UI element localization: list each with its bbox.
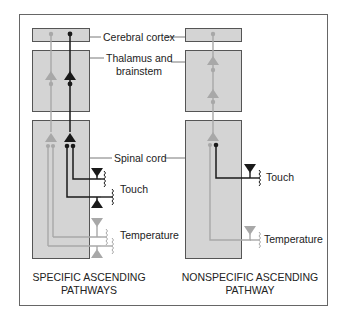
left-cortex-box [33, 29, 90, 42]
ascending-pathways-diagram: Cerebral cortex Thalamus and brainstem S… [0, 0, 343, 317]
label-temperature-specific: Temperature [120, 229, 179, 241]
ns-synapse-c [208, 143, 212, 147]
right-spinal-box [186, 121, 242, 259]
temp-synapse-spinal-a [46, 144, 50, 148]
ns-touch-nerve-ending-icon [259, 170, 261, 186]
nonspecific-column [186, 29, 261, 259]
left-spinal-box [33, 121, 90, 259]
ns-touch-receptor-icon [244, 164, 256, 173]
touch-synapse-spinal-a [65, 144, 70, 149]
ns-temp-receptor-icon [244, 226, 256, 235]
label-touch-specific: Touch [120, 183, 148, 195]
temp-nerve-ending-a-icon [106, 229, 108, 245]
ns-synapse-cortex [211, 32, 215, 36]
temp-synapse-spinal-b [51, 144, 55, 148]
temp-receptor-b-icon [91, 249, 103, 258]
touch-synapse-cortex [68, 32, 73, 37]
left-thalamus-box [33, 51, 90, 112]
label-temperature-nonspecific: Temperature [264, 233, 323, 245]
temp-synapse-cortex [49, 32, 53, 36]
touch-synapse-spinal-b [71, 144, 76, 149]
touch-synapse-thalamus [68, 82, 73, 87]
label-touch-nonspecific: Touch [266, 171, 294, 183]
caption-nonspecific-line2: PATHWAY [225, 284, 274, 296]
ns-temp-nerve-ending-icon [259, 232, 261, 248]
temp-synapse-thalamus [49, 82, 53, 86]
temp-receptor-a-icon [91, 218, 103, 227]
label-thalamus-line2: brainstem [116, 65, 162, 77]
touch-receptor-b-icon [91, 199, 103, 208]
label-cerebral-cortex: Cerebral cortex [103, 31, 176, 43]
caption-nonspecific-line1: NONSPECIFIC ASCENDING [182, 271, 319, 283]
label-thalamus-line1: Thalamus and [106, 52, 173, 64]
label-spinal-cord: Spinal cord [114, 152, 167, 164]
ns-synapse-b [211, 100, 215, 104]
touch-receptor-a-icon [91, 168, 103, 177]
ns-synapse-a [211, 68, 215, 72]
touch-nerve-ending-a-icon [104, 171, 106, 187]
caption-specific-line1: SPECIFIC ASCENDING [32, 271, 145, 283]
touch-nerve-ending-b-icon [112, 189, 114, 205]
caption-specific-line2: PATHWAYS [61, 284, 117, 296]
temp-nerve-ending-b-icon [112, 238, 114, 254]
specific-column [33, 29, 114, 259]
ns-touch-synapse [214, 143, 219, 148]
